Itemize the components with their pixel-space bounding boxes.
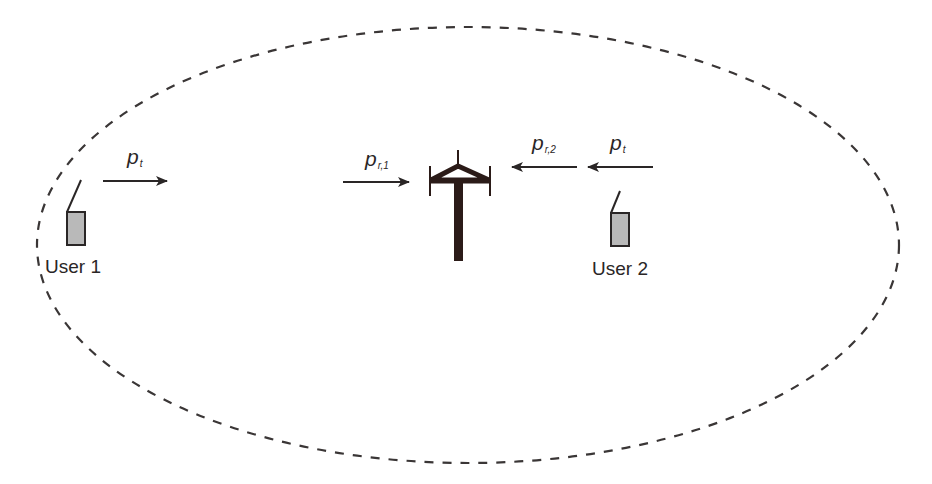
user1-received-power-label: pr,1 <box>365 148 389 169</box>
antenna-tower-icon <box>430 150 490 261</box>
user1-handset-icon <box>67 180 85 245</box>
diagram-canvas <box>0 0 932 484</box>
cell-boundary <box>37 27 899 463</box>
user1-transmit-power-label: pt <box>127 146 142 167</box>
user2-label: User 2 <box>592 258 648 280</box>
user2-handset-icon <box>611 191 629 246</box>
user2-received-power-label: pr,2 <box>532 132 556 153</box>
user2-transmit-power-label: pt <box>610 132 625 153</box>
user1-label: User 1 <box>45 256 101 278</box>
